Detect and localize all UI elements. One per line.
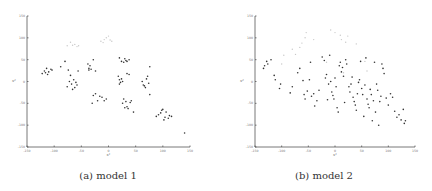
data-point xyxy=(123,98,125,100)
data-point xyxy=(280,83,282,85)
data-point xyxy=(118,76,120,78)
data-point xyxy=(70,75,72,77)
data-point xyxy=(91,103,93,105)
data-point xyxy=(70,42,71,43)
data-point xyxy=(156,116,158,118)
data-point xyxy=(160,112,162,114)
x-tick-label: -100 xyxy=(278,149,285,153)
data-point xyxy=(144,85,146,87)
data-point xyxy=(128,74,130,76)
data-point xyxy=(351,76,353,78)
data-point xyxy=(328,83,330,85)
data-point xyxy=(326,62,327,63)
data-point xyxy=(367,103,369,105)
scatter-plot-a: -150-100-50050100150150100500-50-100-150… xyxy=(0,0,216,191)
data-point xyxy=(46,68,48,70)
data-point xyxy=(390,93,392,95)
data-point xyxy=(141,81,143,83)
data-point xyxy=(299,47,300,48)
data-point xyxy=(88,68,90,70)
data-point xyxy=(306,32,307,33)
data-point xyxy=(327,99,329,101)
data-point xyxy=(73,79,75,81)
data-point xyxy=(357,93,359,95)
data-point xyxy=(145,87,147,89)
data-point xyxy=(311,96,313,98)
chart-panel-b: -150-100-50050100150150100500-50-100-150… xyxy=(216,0,432,191)
data-point xyxy=(71,83,73,85)
data-point xyxy=(349,91,351,93)
data-point xyxy=(326,74,328,76)
data-point xyxy=(343,72,344,73)
data-point xyxy=(364,61,365,62)
data-point xyxy=(371,94,373,96)
data-point xyxy=(376,83,378,85)
data-point xyxy=(304,37,305,38)
x-tick-label: 100 xyxy=(385,149,391,153)
data-point xyxy=(330,29,331,30)
data-point xyxy=(340,35,341,36)
data-point xyxy=(379,101,381,103)
data-point xyxy=(301,42,302,43)
y-tick-label: 0 xyxy=(23,80,25,84)
x-axis-label: x¹ xyxy=(333,152,337,157)
x-tick-label: -50 xyxy=(79,149,84,153)
data-point xyxy=(128,59,130,61)
data-point xyxy=(388,104,390,106)
chart-panel-a: -150-100-50050100150150100500-50-100-150… xyxy=(0,0,216,191)
data-point xyxy=(119,79,121,81)
data-point xyxy=(77,70,79,72)
caption-a: (a) model 1 xyxy=(0,170,216,181)
data-point xyxy=(108,35,109,36)
data-point xyxy=(109,39,110,40)
data-point xyxy=(347,35,348,36)
y-axis-label: x² xyxy=(12,78,16,83)
data-point xyxy=(95,93,97,95)
data-point xyxy=(380,96,382,98)
data-point xyxy=(304,98,306,100)
data-point xyxy=(122,81,124,83)
data-point xyxy=(76,84,78,86)
data-point xyxy=(102,42,103,43)
data-point xyxy=(365,57,367,59)
data-point xyxy=(126,73,128,75)
data-point xyxy=(398,114,400,116)
data-point xyxy=(340,62,342,64)
data-point xyxy=(374,62,376,64)
data-point xyxy=(273,75,275,77)
data-point xyxy=(104,39,105,40)
series-faint-points xyxy=(281,29,368,73)
data-point xyxy=(346,63,348,65)
data-point xyxy=(69,81,71,83)
data-point xyxy=(120,82,122,84)
data-point xyxy=(341,39,342,40)
data-point xyxy=(129,102,131,104)
data-point xyxy=(353,101,355,103)
data-point xyxy=(126,106,128,108)
x-tick-label: -100 xyxy=(51,149,58,153)
data-point xyxy=(149,94,151,96)
data-point xyxy=(362,94,364,96)
data-point xyxy=(44,70,46,72)
data-point xyxy=(88,69,90,71)
data-point xyxy=(74,87,76,89)
data-point xyxy=(72,45,73,46)
data-point xyxy=(103,100,105,102)
data-point xyxy=(99,96,101,98)
data-point xyxy=(263,68,265,70)
data-point xyxy=(292,86,294,88)
y-tick-label: -150 xyxy=(18,145,25,149)
data-point xyxy=(400,119,402,121)
data-point xyxy=(299,68,301,70)
data-point xyxy=(355,104,357,106)
y-tick-label: -50 xyxy=(20,101,25,105)
data-point xyxy=(313,39,314,40)
x-tick-label: 50 xyxy=(360,149,364,153)
data-point xyxy=(169,115,171,117)
data-point xyxy=(313,93,315,95)
data-point xyxy=(334,77,336,79)
y-tick-label: 100 xyxy=(19,36,25,40)
data-point xyxy=(348,86,350,88)
data-point xyxy=(121,61,123,63)
data-point xyxy=(165,111,167,113)
